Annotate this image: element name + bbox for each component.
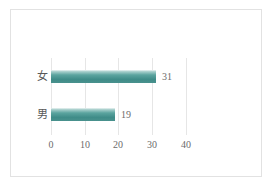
bar-fill-female xyxy=(51,70,156,83)
bar-female[interactable] xyxy=(51,70,156,83)
xtick-label-10: 10 xyxy=(73,139,97,150)
bar-fill-male xyxy=(51,108,115,121)
value-label-female: 31 xyxy=(162,70,172,83)
xtick-label-30: 30 xyxy=(140,139,164,150)
bar-chart: 女 31 男 19 0 10 20 30 40 xyxy=(0,0,280,196)
category-label-male: 男 xyxy=(26,108,48,121)
bar-male[interactable] xyxy=(51,108,115,121)
gridline-40 xyxy=(186,58,187,135)
category-label-female: 女 xyxy=(26,70,48,83)
xtick-label-40: 40 xyxy=(174,139,198,150)
xtick-label-20: 20 xyxy=(106,139,130,150)
value-label-male: 19 xyxy=(121,108,131,121)
xtick-label-0: 0 xyxy=(39,139,63,150)
